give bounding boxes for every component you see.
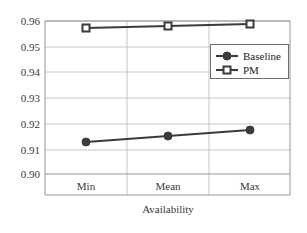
series-pm-point-min <box>83 25 90 32</box>
series-baseline-point-min <box>82 138 90 146</box>
series-pm-point-max <box>247 21 254 28</box>
series-baseline <box>82 126 254 146</box>
y-tick-label-093: 0.93 <box>21 92 41 104</box>
y-tick-label-091: 0.91 <box>21 144 40 156</box>
series-baseline-point-max <box>246 126 254 134</box>
legend-label-baseline: Baseline <box>243 50 281 62</box>
y-tick-label-094: 0.94 <box>21 66 41 78</box>
legend-label-pm: PM <box>243 64 259 76</box>
series-baseline-point-mean <box>164 132 172 140</box>
x-axis-title: Availability <box>142 203 194 215</box>
chart-canvas: 0.96 0.95 0.94 0.93 0.92 0.91 0.90 <box>0 0 307 233</box>
x-tick-label-mean: Mean <box>155 180 181 192</box>
y-axis-tick-labels: 0.96 0.95 0.94 0.93 0.92 0.91 0.90 <box>21 15 41 180</box>
y-tick-label-092: 0.92 <box>21 118 40 130</box>
legend-item-baseline: Baseline <box>216 50 281 62</box>
series-pm <box>83 21 254 32</box>
open-square-icon <box>224 67 231 74</box>
y-tick-label-095: 0.95 <box>21 41 41 53</box>
filled-circle-icon <box>223 52 231 60</box>
chart-legend: Baseline PM <box>211 45 289 79</box>
x-tick-label-max: Max <box>240 180 261 192</box>
y-tick-label-090: 0.90 <box>21 168 41 180</box>
y-tick-label-096: 0.96 <box>21 15 41 27</box>
x-axis-tick-labels: Min Mean Max <box>77 180 261 192</box>
series-pm-point-mean <box>165 23 172 30</box>
x-tick-label-min: Min <box>77 180 96 192</box>
line-chart: 0.96 0.95 0.94 0.93 0.92 0.91 0.90 <box>0 0 307 233</box>
